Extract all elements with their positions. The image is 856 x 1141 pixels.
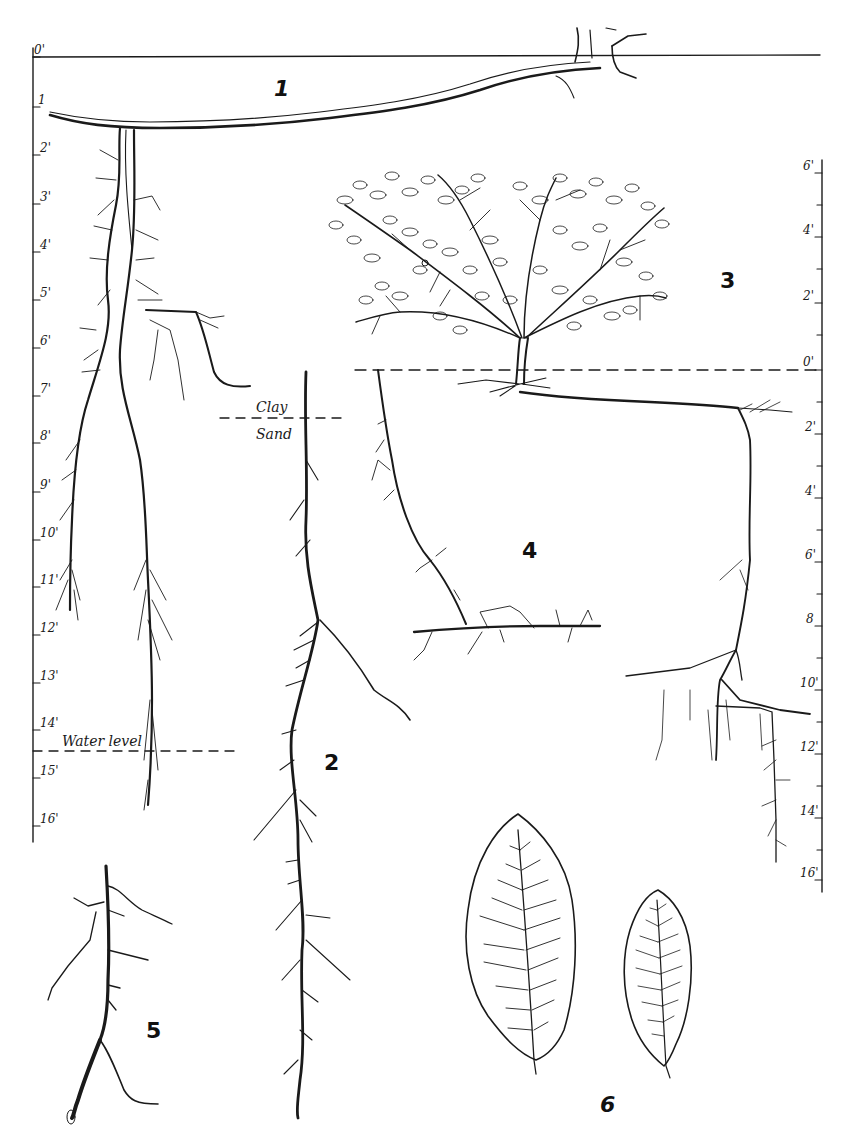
right-scale-below-tick-2: 2' [805, 421, 816, 433]
sand-label: Sand [256, 427, 292, 441]
right-scale-above-tick-2: 2' [803, 290, 814, 302]
left-scale-tick-2: 2' [40, 142, 51, 154]
left-scale-tick-14: 14' [40, 717, 59, 729]
figure-6-leaves [466, 814, 691, 1078]
left-scale-tick-4: 4' [40, 239, 51, 251]
water-level-label: Water level [62, 734, 142, 748]
right-scale-below-tick-16: 16' [800, 867, 819, 879]
left-scale-tick-16: 16' [40, 813, 59, 825]
large-leaf [466, 814, 575, 1060]
right-scale-below-tick-4: 4' [805, 485, 816, 497]
right-scale-below-tick-12: 12' [800, 741, 819, 753]
left-scale-tick-3: 3' [40, 191, 51, 203]
right-scale-below-tick-14: 14' [800, 805, 819, 817]
left-scale-tick-0: 0' [34, 44, 45, 56]
left-scale-tick-6: 6' [40, 335, 51, 347]
left-scale-tick-7: 7' [40, 383, 51, 395]
figure-label-2: 2 [324, 752, 339, 774]
left-scale-tick-5: 5' [40, 287, 51, 299]
right-height-depth-scale [815, 160, 822, 892]
right-scale-below-tick-10: 10' [800, 677, 819, 689]
left-scale-tick-15: 15' [40, 765, 59, 777]
figure-4-oblique-root [372, 370, 600, 660]
figure-label-4: 4 [522, 540, 537, 562]
figure-5-root-tip [48, 866, 172, 1124]
left-scale-tick-9: 9' [40, 479, 51, 491]
right-scale-below-tick-8: 8 [806, 613, 814, 625]
figure-label-3: 3 [720, 270, 735, 292]
figure-label-5: 5 [146, 1020, 161, 1042]
left-scale-tick-13: 13' [40, 670, 59, 682]
right-scale-above-tick-6: 6' [803, 160, 814, 172]
clay-label: Clay [256, 400, 287, 414]
left-scale-tick-1: 1 [38, 94, 46, 106]
figure-2-taproot [254, 372, 410, 1118]
figure-label-6: 6 [600, 1094, 615, 1116]
root-system-illustration [0, 0, 856, 1141]
left-scale-tick-11: 11' [40, 574, 59, 586]
figure-1-roots [50, 28, 646, 810]
left-scale-tick-10: 10' [40, 527, 59, 539]
figure-3-shrub [329, 172, 820, 862]
right-scale-below-tick-6: 6' [805, 549, 816, 561]
right-scale-above-tick-0: 0' [803, 356, 814, 368]
right-scale-above-tick-4: 4' [803, 224, 814, 236]
left-scale-tick-8: 8' [40, 430, 51, 442]
left-scale-tick-12: 12' [40, 622, 59, 634]
figure-label-1: 1 [274, 78, 289, 100]
